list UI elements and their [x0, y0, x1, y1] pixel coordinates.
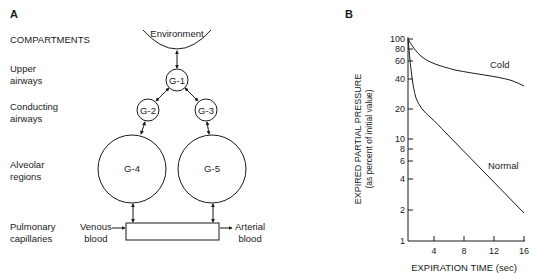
diagram-node-labels: Environment G-1 G-2 G-3 G-4 G-5 — [124, 28, 220, 174]
y-axis-title: EXPIRED PARTIAL PRESSURE (as percent of … — [353, 74, 374, 204]
g5-label: G-5 — [204, 163, 220, 174]
y-tick-label: 6 — [400, 156, 405, 166]
y-tick-label: 4 — [400, 174, 405, 184]
y-tick-label: 1 — [400, 236, 405, 246]
y-tick-labels: 100 80 60 40 20 10 8 6 4 2 1 — [390, 34, 405, 246]
y-tick-label: 100 — [390, 34, 405, 44]
arrow-g2-g4 — [141, 122, 145, 134]
arrow-g3-g5 — [207, 122, 209, 134]
x-axis-title: EXPIRATION TIME (sec) — [411, 262, 517, 273]
y-tick-label: 20 — [395, 104, 405, 114]
x-tick-label: 4 — [431, 246, 436, 256]
capillary-box — [126, 223, 219, 240]
y-tick-label: 80 — [395, 44, 405, 54]
compartment-diagram — [98, 30, 246, 240]
series-label-normal: Normal — [488, 160, 519, 171]
y-tick-label: 8 — [400, 144, 405, 154]
y-tick-label: 40 — [395, 74, 405, 84]
g2-label: G-2 — [140, 105, 156, 116]
series-labels: Cold Normal — [488, 59, 519, 171]
g1-label: G-1 — [169, 75, 185, 86]
y-axis-title-line2: (as percent of initial value) — [364, 89, 374, 188]
x-tick-label: 12 — [489, 246, 499, 256]
y-tick-label: 60 — [395, 56, 405, 66]
panel-b-letter: B — [345, 8, 353, 20]
x-tick-label: 8 — [461, 246, 466, 256]
arrow-g1-g2 — [156, 88, 169, 101]
series-label-cold: Cold — [490, 59, 510, 70]
figure-canvas: Environment G-1 G-2 G-3 G-4 G-5 B EXPIRE… — [0, 0, 538, 278]
y-tick-label: 10 — [395, 134, 405, 144]
g3-label: G-3 — [198, 105, 214, 116]
g4-label: G-4 — [124, 163, 140, 174]
arrow-g1-g3 — [185, 88, 198, 101]
x-tick-labels: 4 8 12 16 — [431, 246, 529, 256]
y-tick-label: 2 — [400, 205, 405, 215]
environment-label: Environment — [150, 28, 204, 39]
y-axis-title-line1: EXPIRED PARTIAL PRESSURE — [353, 74, 363, 204]
x-tick-label: 16 — [519, 246, 529, 256]
